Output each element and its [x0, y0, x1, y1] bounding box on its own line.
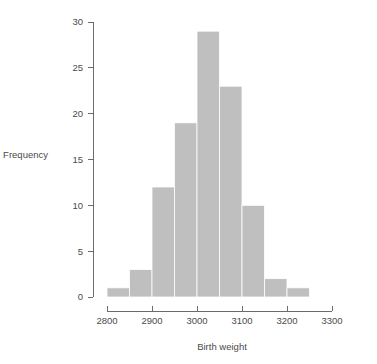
y-axis-tick-label: 20: [72, 108, 83, 119]
histogram-bar: [175, 123, 198, 297]
y-axis-tick-label: 0: [78, 291, 83, 302]
histogram-bar: [107, 288, 130, 297]
x-axis-tick-label: 3300: [321, 315, 342, 326]
chart-canvas: 051015202530 280029003000310032003300 Fr…: [0, 0, 377, 364]
histogram-bar: [287, 288, 310, 297]
y-axis-tick-label: 25: [72, 62, 83, 73]
x-axis-tick-label: 2800: [96, 315, 117, 326]
x-axis-tick-label: 3200: [276, 315, 297, 326]
y-axis-tick-label: 30: [72, 16, 83, 27]
histogram-bar: [265, 279, 288, 297]
x-axis-tick-label: 2900: [141, 315, 162, 326]
x-axis-tick-label: 3000: [186, 315, 207, 326]
histogram-bar: [242, 205, 265, 297]
y-axis-tick-label: 5: [78, 246, 83, 257]
histogram-bar: [220, 86, 243, 297]
x-axis: 280029003000310032003300: [96, 306, 342, 326]
histogram-figure: 051015202530 280029003000310032003300 Fr…: [0, 0, 377, 364]
x-axis-title: Birth weight: [197, 341, 247, 352]
y-axis-tick-label: 10: [72, 200, 83, 211]
histogram-bar: [197, 31, 220, 297]
y-axis-tick-label: 15: [72, 154, 83, 165]
y-axis-title: Frequency: [3, 149, 48, 160]
histogram-bar: [130, 270, 153, 298]
x-axis-tick-label: 3100: [231, 315, 252, 326]
bars-group: [107, 31, 310, 297]
histogram-bar: [152, 187, 175, 297]
y-axis: 051015202530: [72, 16, 93, 302]
